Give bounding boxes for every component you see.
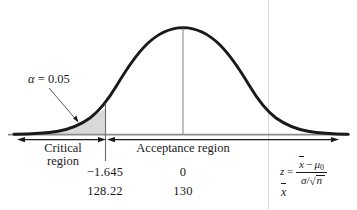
normal-distribution-figure: α = 0.05 Critical region Acceptance regi… (0, 0, 357, 210)
alpha-annotation: α = 0.05 (28, 73, 70, 86)
z-formula-denominator: σ/√n (296, 173, 327, 186)
alpha-equals-sign: = (38, 72, 45, 86)
acceptance-region-label: Acceptance region (136, 142, 229, 155)
z-formula: z = x − μ0 σ/√n (280, 158, 327, 186)
z-formula-symbol: z (280, 165, 284, 177)
critical-region-label-line2: region (44, 155, 82, 168)
sqrt-n: √n (310, 174, 323, 186)
z-center-tick-label: 0 (180, 166, 186, 179)
x-center-tick-label: 130 (173, 185, 192, 198)
z-formula-numerator: x − μ0 (296, 158, 327, 173)
xbar-symbol: x (299, 158, 304, 170)
alpha-value: 0.05 (48, 72, 70, 86)
z-critical-tick-label: −1.645 (87, 166, 123, 179)
x-critical-tick-label: 128.22 (87, 185, 123, 198)
critical-region-label: Critical region (44, 142, 82, 168)
z-formula-fraction: x − μ0 σ/√n (296, 158, 327, 186)
mu-subscript: 0 (320, 163, 324, 172)
xbar-axis-symbol: x (281, 185, 286, 200)
xbar-axis-glyph: x (281, 185, 286, 199)
z-formula-equals: = (287, 165, 293, 177)
minus-sign: − (306, 158, 312, 170)
alpha-leader-line (49, 88, 79, 123)
